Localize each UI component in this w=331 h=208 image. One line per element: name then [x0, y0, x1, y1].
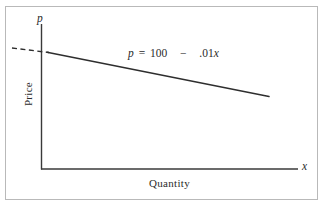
x-axis-tip-label: x	[302, 161, 307, 173]
y-axis-title: Price	[22, 64, 34, 124]
x-axis-title: Quantity	[41, 177, 298, 189]
demand-curve-figure: p x Price Quantity p = 100 − .01x	[0, 0, 331, 208]
equation-rhs-variable: x	[214, 47, 219, 59]
equation-minus-sign: −	[178, 47, 189, 59]
demand-equation-label: p = 100 − .01x	[128, 47, 219, 60]
equation-slope-coefficient: .01	[199, 47, 213, 59]
demand-curve-dashed-extension	[12, 48, 49, 53]
equation-intercept: 100	[150, 47, 167, 59]
y-axis-tip-label: p	[37, 13, 43, 25]
equation-equals-sign: =	[137, 47, 148, 59]
equation-lhs-variable: p	[128, 47, 134, 59]
